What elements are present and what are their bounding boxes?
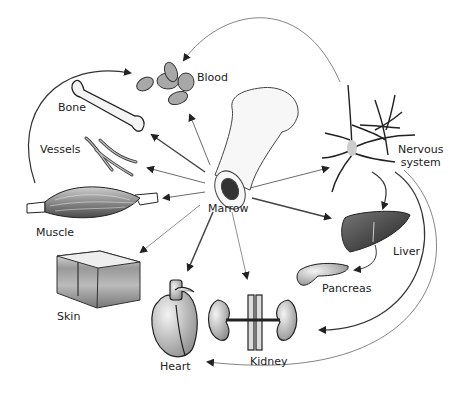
marrow-bone-illustration [209,87,298,214]
kidney-illustration [208,295,296,350]
label-vessels: Vessels [40,143,80,156]
label-bone: Bone [58,101,86,114]
vessels-illustration [86,138,136,175]
label-pancreas: Pancreas [322,282,371,295]
skin-illustration [57,251,140,308]
label-blood: Blood [197,71,228,84]
label-nervous-system: Nervous system [398,143,443,169]
label-nervous-line2: system [398,156,443,169]
label-nervous-line1: Nervous [398,143,443,156]
label-muscle: Muscle [36,226,74,239]
label-marrow: Marrow [208,202,249,215]
label-liver: Liver [393,245,420,258]
marrow-diagram: Blood Bone Vessels Muscle Skin Heart Kid… [0,0,461,398]
label-heart: Heart [160,360,191,373]
label-kidney: Kidney [250,355,288,368]
heart-illustration [152,280,197,357]
blood-cells-illustration [134,61,194,108]
muscle-illustration [27,187,158,218]
label-skin: Skin [57,310,80,323]
diagram-canvas [0,0,461,398]
